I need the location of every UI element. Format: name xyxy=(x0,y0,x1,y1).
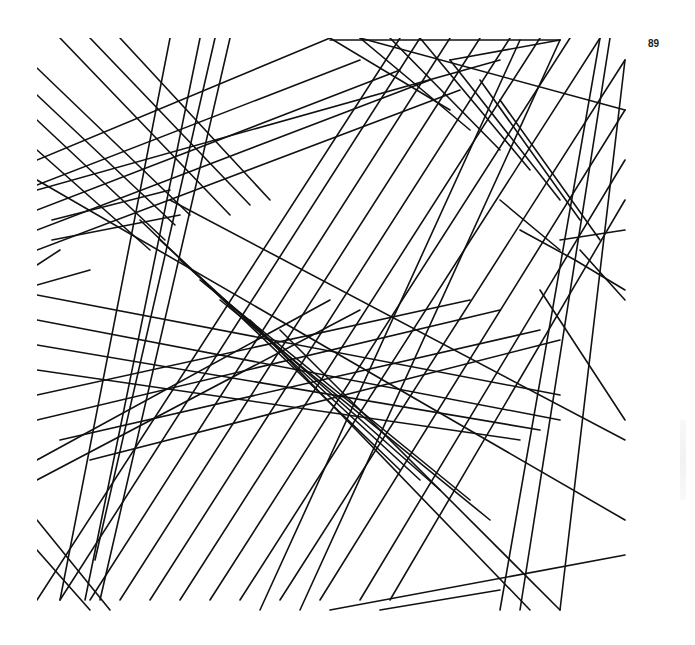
art-line xyxy=(360,160,625,600)
art-line xyxy=(580,250,625,300)
art-line xyxy=(150,38,510,600)
art-line xyxy=(37,38,330,160)
art-line xyxy=(520,38,610,610)
art-line xyxy=(300,40,560,610)
art-line xyxy=(320,110,625,600)
art-line xyxy=(560,230,625,240)
art-line xyxy=(280,330,560,610)
art-line xyxy=(120,38,480,600)
art-line xyxy=(37,370,520,440)
page-number: 89 xyxy=(648,38,659,49)
art-line xyxy=(390,38,500,150)
art-line xyxy=(37,250,60,265)
art-line xyxy=(37,90,460,250)
art-line xyxy=(450,40,560,60)
art-line xyxy=(60,330,540,440)
art-line xyxy=(37,38,400,600)
art-line xyxy=(420,38,530,170)
art-line xyxy=(260,40,520,610)
art-line xyxy=(37,295,560,395)
art-line xyxy=(60,38,420,600)
art-line xyxy=(250,320,530,610)
art-line xyxy=(330,555,625,610)
scan-bleed-through xyxy=(680,420,686,500)
art-line xyxy=(200,280,470,500)
art-line xyxy=(380,590,500,610)
art-line xyxy=(450,60,560,200)
art-line xyxy=(360,38,470,130)
art-line xyxy=(180,38,540,600)
line-art-illustration xyxy=(0,0,695,645)
art-line xyxy=(170,200,625,440)
art-line xyxy=(85,38,200,600)
intersecting-line-bands xyxy=(37,38,625,610)
art-line xyxy=(60,38,170,600)
art-line xyxy=(37,60,360,185)
art-line xyxy=(37,270,90,285)
